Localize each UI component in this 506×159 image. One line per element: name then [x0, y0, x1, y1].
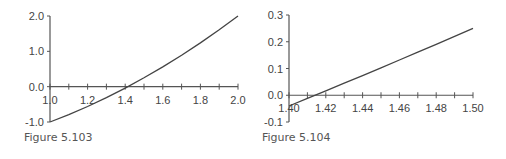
figure-caption-right: Figure 5.104 — [262, 131, 331, 144]
y-tick-label: 0.3 — [268, 9, 283, 21]
y-tick-label: 0.1 — [268, 63, 283, 75]
x-tick-label: 1.46 — [389, 102, 410, 114]
figure-caption-left: Figure 5.103 — [24, 131, 93, 144]
x-tick-label: 1.42 — [315, 102, 336, 114]
x-tick-label: 1.48 — [425, 102, 446, 114]
x-tick-label: 1.44 — [352, 102, 373, 114]
y-tick-label: 0.2 — [268, 36, 283, 48]
x-tick-label: 1.40 — [278, 102, 299, 114]
x-tick-label: 1.50 — [462, 102, 483, 114]
y-tick-label: 0.0 — [268, 89, 283, 101]
y-tick-label: -0.1 — [264, 116, 283, 128]
